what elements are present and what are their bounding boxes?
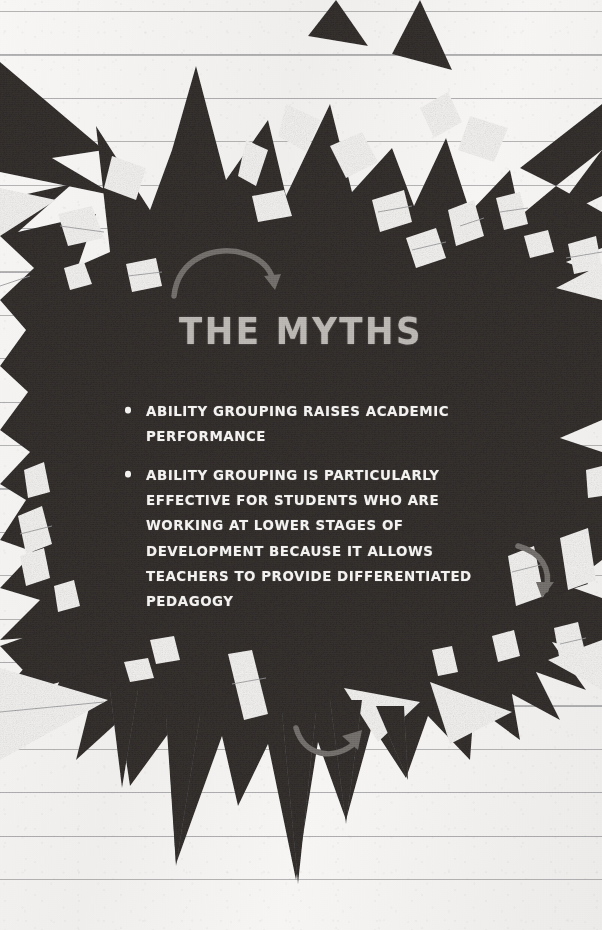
list-item-text: ABILITY GROUPING IS PARTICULARLY EFFECTI…	[146, 466, 472, 609]
myths-bullet-list: ABILITY GROUPING RAISES ACADEMIC PERFORM…	[118, 398, 518, 600]
bullet-dot-icon	[125, 471, 131, 477]
list-item: ABILITY GROUPING IS PARTICULARLY EFFECTI…	[118, 462, 518, 614]
bullet-dot-icon	[125, 407, 131, 413]
list-item-text: ABILITY GROUPING RAISES ACADEMIC PERFORM…	[146, 402, 449, 444]
page-title: THE MYTHS	[0, 312, 602, 350]
slide-canvas: THE MYTHS ABILITY GROUPING RAISES ACADEM…	[0, 0, 602, 930]
list-item: ABILITY GROUPING RAISES ACADEMIC PERFORM…	[118, 398, 518, 449]
